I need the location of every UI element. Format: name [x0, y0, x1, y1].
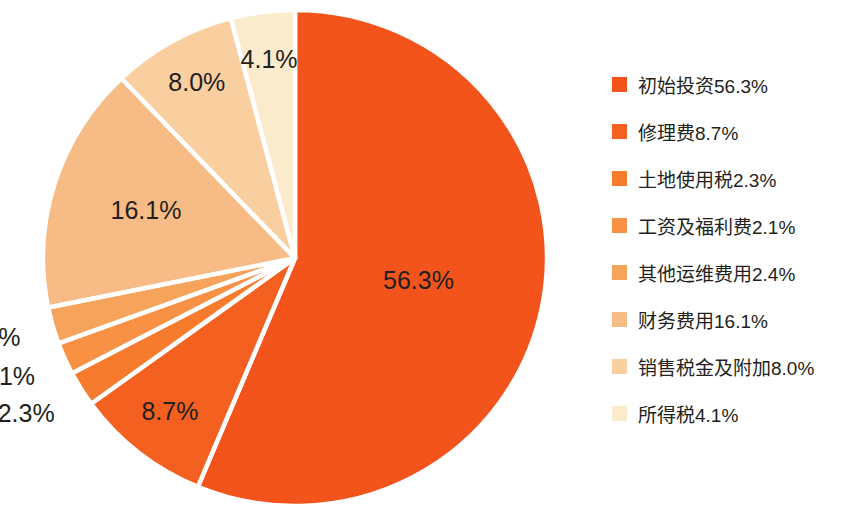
legend-item-label: 财务费用16.1% — [638, 306, 768, 333]
legend-item[interactable]: 初始投资56.3% — [612, 74, 841, 95]
legend-color-swatch — [612, 171, 627, 186]
pie-slice-value-label: 2.4% — [0, 323, 21, 351]
pie-slice-value-label: 16.1% — [111, 196, 182, 224]
legend-color-swatch — [612, 359, 627, 374]
legend-color-swatch — [612, 218, 627, 233]
pie-chart-figure: 56.3%8.7%2.3%2.1%2.4%16.1%8.0%4.1% — [0, 0, 600, 505]
legend-item-label: 工资及福利费2.1% — [638, 212, 795, 239]
chart-legend: 初始投资56.3%修理费8.7%土地使用税2.3%工资及福利费2.1%其他运维费… — [612, 74, 841, 450]
legend-item-label: 销售税金及附加8.0% — [638, 353, 814, 380]
legend-item[interactable]: 土地使用税2.3% — [612, 168, 841, 189]
legend-item-label: 土地使用税2.3% — [638, 165, 776, 192]
pie-slices-group — [43, 10, 547, 505]
pie-chart-page: 56.3%8.7%2.3%2.1%2.4%16.1%8.0%4.1% 初始投资5… — [0, 0, 841, 505]
pie-slice-value-label: 4.1% — [241, 45, 298, 73]
legend-item[interactable]: 财务费用16.1% — [612, 309, 841, 330]
pie-chart-svg: 56.3%8.7%2.3%2.1%2.4%16.1%8.0%4.1% — [0, 0, 600, 505]
pie-slice-value-label: 2.3% — [0, 399, 55, 427]
legend-item-label: 修理费8.7% — [638, 118, 738, 145]
legend-color-swatch — [612, 312, 627, 327]
legend-color-swatch — [612, 265, 627, 280]
legend-color-swatch — [612, 406, 627, 421]
pie-slice-value-label: 8.0% — [168, 68, 225, 96]
legend-color-swatch — [612, 77, 627, 92]
legend-item-label: 所得税4.1% — [638, 400, 738, 427]
legend-item[interactable]: 工资及福利费2.1% — [612, 215, 841, 236]
pie-slice-value-label: 8.7% — [141, 397, 198, 425]
legend-item[interactable]: 销售税金及附加8.0% — [612, 356, 841, 377]
legend-item[interactable]: 修理费8.7% — [612, 121, 841, 142]
pie-slice-value-label: 56.3% — [383, 266, 454, 294]
legend-item-label: 初始投资56.3% — [638, 71, 768, 98]
legend-item-label: 其他运维费用2.4% — [638, 259, 795, 286]
legend-item[interactable]: 所得税4.1% — [612, 403, 841, 424]
legend-item[interactable]: 其他运维费用2.4% — [612, 262, 841, 283]
pie-slice-value-label: 2.1% — [0, 362, 35, 390]
legend-color-swatch — [612, 124, 627, 139]
